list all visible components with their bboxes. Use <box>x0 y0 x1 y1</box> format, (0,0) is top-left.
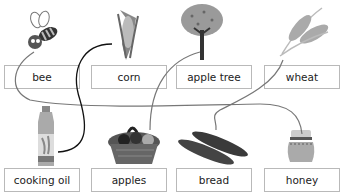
bee-icon <box>22 10 64 52</box>
apple-tree-icon <box>180 2 224 60</box>
label-apple-tree[interactable]: apple tree <box>176 65 252 89</box>
bread-icon <box>176 124 250 166</box>
label-apples[interactable]: apples <box>91 168 167 192</box>
corn-icon <box>112 4 142 60</box>
label-bread[interactable]: bread <box>176 168 252 192</box>
label-bee[interactable]: bee <box>4 65 80 89</box>
apple-basket-icon <box>106 118 162 168</box>
label-corn[interactable]: corn <box>91 65 167 89</box>
line-corn-cooking-oil <box>58 44 112 152</box>
label-cooking-oil[interactable]: cooking oil <box>4 168 80 192</box>
honey-jar-icon <box>286 130 316 166</box>
label-wheat[interactable]: wheat <box>264 65 340 89</box>
label-honey[interactable]: honey <box>264 168 340 192</box>
cooking-oil-icon <box>34 106 58 168</box>
wheat-icon <box>272 4 334 58</box>
